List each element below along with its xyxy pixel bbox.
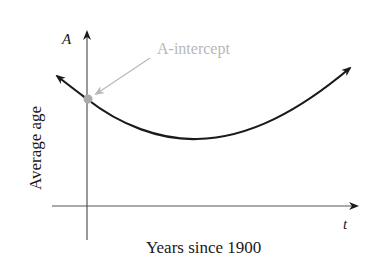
y-axis-title: Average age [26, 106, 45, 190]
chart: A t Years since 1900 Average age A-inter… [0, 0, 373, 273]
intercept-point [84, 95, 93, 104]
curve [87, 68, 350, 139]
x-axis-title: Years since 1900 [146, 238, 261, 257]
curve-left-extension [57, 76, 87, 99]
x-axis-var-label: t [343, 216, 348, 232]
y-axis-var-label: A [61, 31, 72, 47]
intercept-pointer [96, 58, 150, 94]
intercept-annotation: A-intercept [157, 40, 230, 58]
